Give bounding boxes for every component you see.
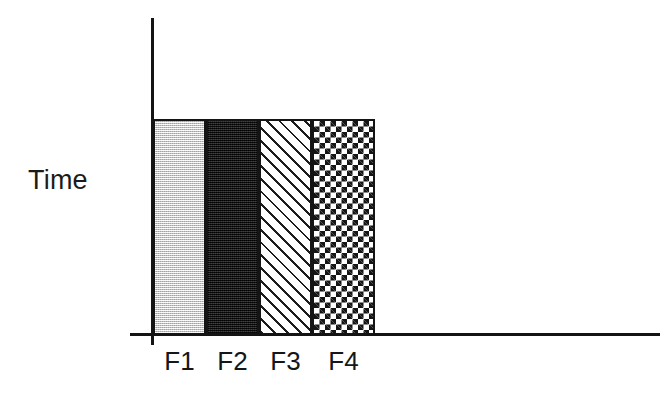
bar-f1 [153,119,206,335]
plot-area [153,119,375,335]
bar-f3 [259,119,312,335]
bar-f2 [206,119,259,335]
bar-chart-figure: Time F1 F2 F3 F4 [0,0,669,408]
x-tick-label-f3: F3 [259,345,312,377]
bar-f4 [312,119,375,335]
x-tick-label-f4: F4 [312,345,375,377]
x-tick-label-f2: F2 [206,345,259,377]
x-tick-label-f1: F1 [153,345,206,377]
y-axis-label: Time [28,164,88,196]
x-tick-label-group: F1 F2 F3 F4 [153,345,375,377]
